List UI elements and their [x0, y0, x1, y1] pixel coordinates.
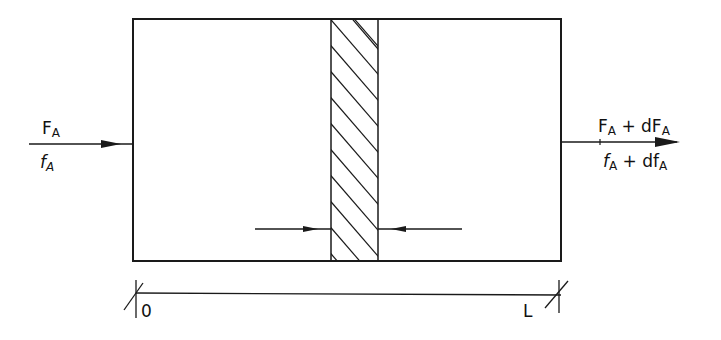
axis-end-label: L: [523, 303, 532, 320]
inlet-flow-symbol: F: [42, 118, 52, 138]
outlet-fraction-label: fA + dfA: [603, 153, 667, 172]
reactor-box: [133, 19, 561, 261]
outlet-flow-differential: + dF: [616, 116, 662, 136]
inlet-arrow: [29, 140, 133, 148]
outlet-molar-flow-label: FA + dFA: [598, 118, 670, 137]
outlet-fraction-differential-subscript: A: [659, 159, 667, 173]
inlet-fraction-subscript: A: [46, 160, 54, 174]
differential-element: [326, 0, 396, 322]
axis-start-label: 0: [141, 303, 152, 320]
outlet-arrow: [561, 137, 680, 147]
inlet-flow-subscript: A: [52, 126, 60, 140]
outlet-flow-symbol: F: [598, 116, 608, 136]
outlet-flow-subscript: A: [608, 124, 616, 138]
inlet-fraction-label: fA: [40, 154, 54, 173]
hatch-lines: [326, 0, 396, 322]
inlet-molar-flow-label: FA: [42, 120, 60, 139]
length-axis: [124, 280, 568, 318]
outlet-flow-differential-subscript: A: [662, 124, 670, 138]
outlet-fraction-subscript: A: [609, 159, 617, 173]
element-left-arrow: [255, 226, 331, 232]
outlet-fraction-differential: + df: [617, 151, 659, 171]
element-right-arrow: [378, 226, 462, 232]
